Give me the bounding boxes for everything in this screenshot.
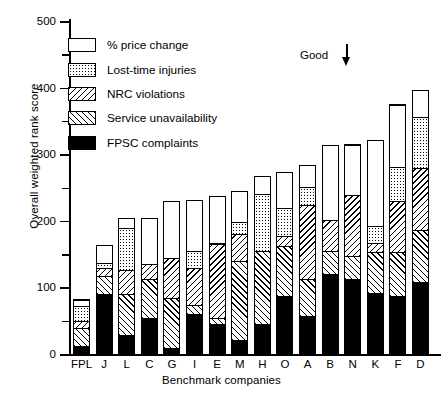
- legend-swatch-icon: [68, 38, 96, 52]
- legend-swatch-icon: [68, 63, 96, 77]
- bar-f[interactable]: [389, 106, 406, 354]
- legend-label: FPSC complaints: [107, 136, 198, 150]
- bar-e[interactable]: [209, 197, 226, 354]
- bar-segment: [412, 118, 429, 169]
- good-label: Good: [300, 49, 328, 61]
- bar-j[interactable]: [96, 246, 113, 354]
- bar-m[interactable]: [231, 192, 248, 354]
- bar-segment: [209, 197, 226, 244]
- bar-top-cap: [322, 145, 339, 146]
- bar-top-cap: [367, 140, 384, 141]
- bar-l[interactable]: [118, 219, 135, 354]
- bar-top-cap: [344, 144, 361, 145]
- bar-segment: [389, 253, 406, 296]
- y-axis-tick: [60, 287, 69, 289]
- bar-b[interactable]: [322, 146, 339, 354]
- bar-fpl[interactable]: [73, 301, 90, 354]
- x-axis-tick-label-f: F: [394, 358, 401, 370]
- x-axis-tick-label-k: K: [371, 358, 379, 370]
- legend-label: Service unavailability: [107, 111, 217, 125]
- bar-segment: [344, 280, 361, 354]
- bar-segment: [299, 188, 316, 207]
- bar-segment: [299, 317, 316, 354]
- y-axis-tick: [60, 221, 69, 223]
- y-axis-tick-label: 100: [37, 281, 56, 293]
- bar-segment: [186, 315, 203, 354]
- bar-segment: [299, 280, 316, 317]
- bar-segment: [276, 297, 293, 354]
- bar-segment: [254, 195, 271, 252]
- legend-label: % price change: [107, 38, 188, 52]
- bar-segment: [141, 219, 158, 266]
- legend-item-2[interactable]: NRC violations: [68, 82, 217, 106]
- x-axis-tick-label-h: H: [258, 358, 266, 370]
- bar-segment: [389, 168, 406, 202]
- bar-top-cap: [96, 245, 113, 246]
- y-axis-tick: [60, 21, 69, 23]
- bar-segment: [299, 206, 316, 280]
- bar-segment: [389, 297, 406, 354]
- bar-segment: [344, 257, 361, 280]
- bar-segment: [367, 253, 384, 294]
- bar-segment: [141, 265, 158, 280]
- bar-segment: [118, 219, 135, 228]
- bar-segment: [73, 347, 90, 354]
- bar-top-cap: [186, 200, 203, 201]
- bar-top-cap: [276, 172, 293, 173]
- bar-i[interactable]: [186, 201, 203, 354]
- bar-segment: [412, 283, 429, 354]
- y-axis-tick-label: 200: [37, 215, 56, 227]
- bar-segment: [96, 277, 113, 294]
- legend-item-3[interactable]: Service unavailability: [68, 106, 217, 130]
- bar-segment: [209, 245, 226, 320]
- bar-d[interactable]: [412, 91, 429, 354]
- bar-segment: [412, 231, 429, 283]
- bar-segment: [254, 252, 271, 325]
- x-axis-tick-label-o: O: [280, 358, 289, 370]
- bar-segment: [73, 307, 90, 322]
- y-axis-tick-label: 300: [37, 148, 56, 160]
- bar-segment: [209, 319, 226, 325]
- bar-g[interactable]: [163, 202, 180, 354]
- bar-n[interactable]: [344, 146, 361, 354]
- bar-segment: [276, 237, 293, 248]
- bar-a[interactable]: [299, 166, 316, 354]
- legend-item-4[interactable]: FPSC complaints: [68, 131, 217, 155]
- bar-segment: [186, 269, 203, 306]
- bar-segment: [186, 252, 203, 269]
- x-axis-tick-label-j: J: [101, 358, 107, 370]
- legend-item-0[interactable]: % price change: [68, 33, 217, 57]
- x-axis-tick-label-e: E: [213, 358, 221, 370]
- x-axis-tick-label-g: G: [167, 358, 176, 370]
- bar-top-cap: [141, 218, 158, 219]
- bar-segment: [276, 247, 293, 296]
- bar-segment: [299, 166, 316, 187]
- bar-segment: [118, 295, 135, 336]
- bar-segment: [254, 325, 271, 354]
- good-direction-annotation: Good: [300, 44, 351, 66]
- bar-k[interactable]: [367, 141, 384, 354]
- bar-segment: [412, 91, 429, 118]
- bar-segment: [209, 325, 226, 354]
- x-axis-tick-label-c: C: [145, 358, 153, 370]
- bar-top-cap: [389, 104, 406, 105]
- bar-h[interactable]: [254, 177, 271, 354]
- bar-segment: [163, 299, 180, 349]
- bar-segment: [186, 306, 203, 315]
- bar-top-cap: [231, 191, 248, 192]
- bar-segment: [322, 275, 339, 354]
- y-axis-tick-label: 0: [50, 348, 56, 360]
- bar-segment: [73, 301, 90, 308]
- bar-segment: [118, 271, 135, 295]
- down-arrow-icon: [342, 44, 351, 66]
- bar-o[interactable]: [276, 173, 293, 354]
- bar-segment: [322, 146, 339, 221]
- bar-segment: [163, 259, 180, 299]
- bar-segment: [367, 141, 384, 228]
- bar-segment: [186, 201, 203, 252]
- legend-item-1[interactable]: Lost-time injuries: [68, 57, 217, 81]
- bar-c[interactable]: [141, 219, 158, 354]
- bar-segment: [322, 252, 339, 275]
- bar-segment: [276, 209, 293, 237]
- bar-segment: [141, 280, 158, 319]
